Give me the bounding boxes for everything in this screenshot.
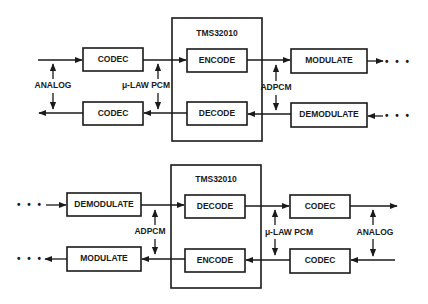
adpcm-label: ADPCM xyxy=(260,82,291,92)
codec-label: CODEC xyxy=(305,201,336,211)
continuation-dots: • • • xyxy=(385,110,411,121)
demodulate-label: DEMODULATE xyxy=(74,199,134,209)
bottom-diagram: TMS32010 • • • DEMODULATE DECODE CODEC C… xyxy=(17,165,397,288)
decode-label: DECODE xyxy=(199,108,236,118)
demodulate-label: DEMODULATE xyxy=(299,109,359,119)
codec-label: CODEC xyxy=(98,54,129,64)
codec-label: CODEC xyxy=(98,108,129,118)
analog-label: ANALOG xyxy=(35,80,72,90)
top-diagram: TMS32010 CODEC ENCODE MODULATE • • • • •… xyxy=(35,18,411,141)
pcm-label: μ-LAW PCM xyxy=(265,227,313,237)
continuation-dots: • • • xyxy=(385,56,411,67)
pcm-label: μ-LAW PCM xyxy=(122,80,170,90)
encode-label: ENCODE xyxy=(197,255,234,265)
adpcm-label: ADPCM xyxy=(134,226,165,236)
modulate-label: MODULATE xyxy=(80,253,128,263)
analog-label: ANALOG xyxy=(357,227,394,237)
encode-label: ENCODE xyxy=(199,55,236,65)
chip-label: TMS32010 xyxy=(196,28,238,38)
codec-label: CODEC xyxy=(305,255,336,265)
block-diagram: TMS32010 CODEC ENCODE MODULATE • • • • •… xyxy=(0,0,428,304)
continuation-dots: • • • xyxy=(17,199,43,210)
decode-label: DECODE xyxy=(197,201,234,211)
modulate-label: MODULATE xyxy=(305,55,353,65)
continuation-dots: • • • xyxy=(17,253,43,264)
chip-label: TMS32010 xyxy=(195,174,237,184)
